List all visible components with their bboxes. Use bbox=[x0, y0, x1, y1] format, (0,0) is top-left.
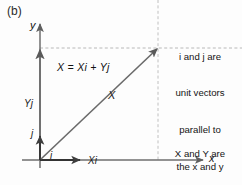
note-scalars: X and Y are scalars bbox=[158, 123, 242, 185]
note-scalars-line-1: X and Y are bbox=[158, 148, 242, 160]
note-unit-line-1: i and j are bbox=[160, 51, 240, 63]
unit-vector-j-label: j bbox=[31, 128, 33, 140]
panel-label: (b) bbox=[7, 4, 22, 18]
figure-panel-b: (b) y x X = Xi + Yj X Yj Xi i j i and j … bbox=[0, 0, 242, 185]
yj-component-label: Yj bbox=[24, 98, 33, 110]
unit-vector-i-label: i bbox=[50, 150, 52, 162]
xi-component-label: Xi bbox=[88, 155, 97, 167]
vector-x-label: X bbox=[108, 89, 115, 102]
y-axis-label: y bbox=[30, 19, 36, 32]
vector-equation: X = Xi + Yj bbox=[57, 61, 110, 73]
note-scalars-line-2: scalars bbox=[158, 184, 242, 185]
note-unit-line-2: unit vectors bbox=[160, 87, 240, 99]
